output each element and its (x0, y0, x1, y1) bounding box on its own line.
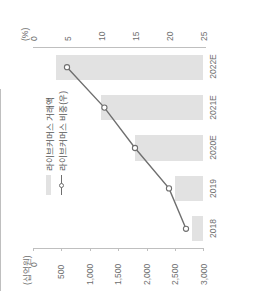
left-tick-mark (203, 248, 204, 251)
legend-line-swatch-icon (58, 175, 65, 195)
share-point-2022E (64, 65, 69, 70)
left-axis-tick-3000: 3,000 (199, 264, 209, 285)
left-axis-tick-2500: 2,500 (170, 264, 180, 285)
legend-item-transaction-value: 라이브커머스 거래액 (42, 91, 55, 195)
right-axis-tick-25: 25 (199, 32, 209, 41)
share-point-2019 (166, 186, 171, 191)
category-label-2018: 2018 (208, 214, 218, 243)
right-axis-tick-10: 10 (97, 32, 107, 41)
category-label-2021E: 2021E (208, 90, 218, 125)
rotated-chart-frame: (십억원) 3,000 2,500 2,000 1,500 1,000 500 … (0, 0, 265, 291)
legend-label-transaction-value: 라이브커머스 거래액 (43, 97, 55, 171)
legend-bar-swatch-icon (46, 175, 51, 195)
right-axis-tick-0: 0 (29, 36, 39, 41)
share-point-2020E (132, 145, 137, 150)
category-label-2020E: 2020E (208, 130, 218, 165)
category-label-2022E: 2022E (208, 49, 218, 84)
right-axis-tick-20: 20 (165, 32, 175, 41)
left-axis-tick-0: 0 (29, 262, 39, 267)
share-point-2018 (183, 226, 188, 231)
left-axis-unit: (십억원) (20, 255, 32, 285)
live-commerce-chart: (십억원) 3,000 2,500 2,000 1,500 1,000 500 … (0, 0, 265, 291)
legend-label-share: 라이브커머스 비중(우) (56, 91, 68, 171)
left-axis-tick-500: 500 (56, 265, 66, 279)
share-point-2021E (102, 105, 107, 110)
left-axis-tick-1000: 1,000 (85, 264, 95, 285)
right-axis-tick-15: 15 (131, 32, 141, 41)
right-tick-mark (203, 47, 206, 48)
left-axis-tick-1500: 1,500 (113, 264, 123, 285)
share-line-path (67, 67, 186, 229)
chart-legend: 라이브커머스 거래액 라이브커머스 비중(우) (42, 91, 68, 195)
legend-item-share: 라이브커머스 비중(우) (55, 91, 68, 195)
category-axis-line (0, 89, 1, 291)
category-label-2019: 2019 (208, 174, 218, 203)
left-axis-tick-2000: 2,000 (142, 264, 152, 285)
right-axis-tick-5: 5 (63, 36, 73, 41)
